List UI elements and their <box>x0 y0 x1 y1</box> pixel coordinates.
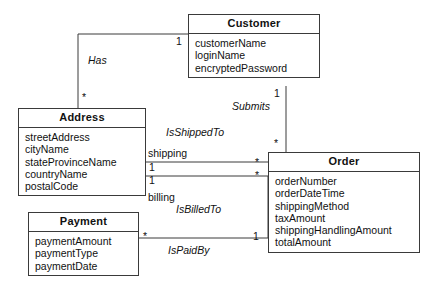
attribute: loginName <box>195 49 319 61</box>
class-title-customer: Customer <box>189 15 319 34</box>
attribute: encryptedPassword <box>195 62 319 74</box>
attribute: paymentAmount <box>35 235 138 247</box>
multiplicity-submits-order-end: * <box>274 138 278 149</box>
role-label-billing: billing <box>148 192 175 203</box>
attribute: countryName <box>25 168 145 180</box>
association-label-ispaidby: IsPaidBy <box>168 244 209 256</box>
association-label-isshippedto: IsShippedTo <box>166 126 224 138</box>
attribute: cityName <box>25 143 145 155</box>
attribute: customerName <box>195 37 319 49</box>
class-attributes-customer: customerName loginName encryptedPassword <box>189 34 319 77</box>
multiplicity-billing-address-end: 1 <box>149 175 155 186</box>
class-box-payment[interactable]: Payment paymentAmount paymentType paymen… <box>28 212 139 276</box>
class-title-payment: Payment <box>29 213 138 232</box>
multiplicity-shipping-address-end: 1 <box>149 162 155 173</box>
class-title-address: Address <box>19 109 145 128</box>
multiplicity-ispaidby-order-end: 1 <box>253 231 259 242</box>
class-attributes-address: streetAddress cityName stateProvinceName… <box>19 128 145 195</box>
attribute: shippingHandlingAmount <box>275 224 419 236</box>
multiplicity-shipping-order-end: * <box>255 157 259 168</box>
attribute: paymentDate <box>35 260 138 272</box>
class-box-order[interactable]: Order orderNumber orderDateTime shipping… <box>268 152 420 253</box>
association-label-submits: Submits <box>232 100 270 112</box>
attribute: streetAddress <box>25 131 145 143</box>
attribute: postalCode <box>25 180 145 192</box>
class-attributes-order: orderNumber orderDateTime shippingMethod… <box>269 172 419 252</box>
attribute: orderNumber <box>275 175 419 187</box>
multiplicity-billing-order-end: * <box>255 170 259 181</box>
attribute: paymentType <box>35 247 138 259</box>
class-box-customer[interactable]: Customer customerName loginName encrypte… <box>188 14 320 78</box>
role-label-shipping: shipping <box>148 148 187 159</box>
attribute: shippingMethod <box>275 200 419 212</box>
class-box-address[interactable]: Address streetAddress cityName stateProv… <box>18 108 146 196</box>
association-label-has: Has <box>88 54 107 66</box>
uml-class-diagram: Customer customerName loginName encrypte… <box>0 0 429 292</box>
attribute: totalAmount <box>275 236 419 248</box>
multiplicity-has-customer-end: 1 <box>176 36 182 47</box>
attribute: orderDateTime <box>275 187 419 199</box>
multiplicity-ispaidby-payment-end: * <box>143 231 147 242</box>
multiplicity-has-address-end: * <box>82 92 86 103</box>
class-attributes-payment: paymentAmount paymentType paymentDate <box>29 232 138 275</box>
multiplicity-submits-customer-end: 1 <box>274 88 280 99</box>
association-line-has <box>78 34 188 108</box>
class-title-order: Order <box>269 153 419 172</box>
attribute: stateProvinceName <box>25 156 145 168</box>
attribute: taxAmount <box>275 212 419 224</box>
association-label-isbilledto: IsBilledTo <box>176 203 221 215</box>
